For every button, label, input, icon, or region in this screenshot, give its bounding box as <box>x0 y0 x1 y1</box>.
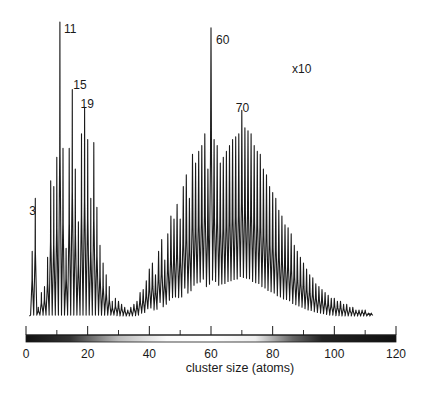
x-tick-label: 120 <box>386 347 406 361</box>
x-axis: 020406080100120 <box>23 326 407 361</box>
spectrum-trace <box>29 22 373 316</box>
x-tick-label: 0 <box>23 347 30 361</box>
x-tick-label: 20 <box>81 347 95 361</box>
scale-annotation: x10 <box>292 62 312 76</box>
x-tick-label: 80 <box>266 347 280 361</box>
x-tick-label: 100 <box>324 347 344 361</box>
peak-label-19: 19 <box>81 97 95 111</box>
x-tick-label: 40 <box>143 347 157 361</box>
peak-label-11: 11 <box>64 22 77 36</box>
peak-label-3: 3 <box>29 204 36 218</box>
x-axis-label: cluster size (atoms) <box>186 361 294 375</box>
mass-spectrum-chart: 020406080100120 31115196070 cluster size… <box>0 0 427 397</box>
peak-label-70: 70 <box>236 101 250 115</box>
x-tick-label: 60 <box>204 347 218 361</box>
peak-label-15: 15 <box>73 78 87 92</box>
peak-label-60: 60 <box>216 33 230 47</box>
